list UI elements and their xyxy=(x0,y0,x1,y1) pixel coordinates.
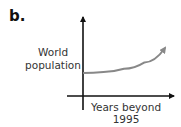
population-curve xyxy=(83,48,165,73)
chart-plot xyxy=(0,0,181,127)
